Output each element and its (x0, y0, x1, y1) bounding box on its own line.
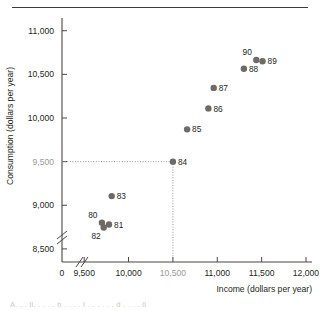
data-point-84: 84 (170, 157, 188, 167)
data-point-marker-87 (211, 85, 217, 91)
x-axis-title: Income (dollars per year) (216, 284, 312, 294)
data-point-label-83: 83 (117, 191, 127, 201)
y-tick-label-8500: 8,500 (32, 244, 54, 254)
x-tick-label-11500: 11,500 (249, 268, 275, 278)
data-point-marker-90 (253, 57, 259, 63)
data-point-group: 8081828384858687888990 (88, 47, 277, 241)
origin-label: 0 (60, 268, 65, 278)
data-point-88: 88 (241, 64, 259, 74)
y-tick-label-10500: 10,500 (28, 69, 55, 79)
data-point-label-88: 88 (249, 64, 259, 74)
data-point-marker-88 (241, 65, 247, 71)
x-tick-label-12000: 12,000 (293, 268, 320, 278)
data-point-90: 90 (243, 47, 260, 63)
data-point-marker-89 (259, 58, 265, 64)
y-axis-title: Consumption (dollars per year) (5, 67, 15, 185)
data-point-label-86: 86 (213, 104, 223, 114)
x-tick-label-10500: 10,500 (160, 268, 187, 278)
x-tick-label-11000: 11,000 (204, 268, 230, 278)
top-horizontal-rule (12, 7, 308, 8)
data-point-label-89: 89 (268, 56, 278, 66)
x-axis-ticks (84, 257, 306, 262)
x-tick-label-9500: 9,500 (73, 268, 95, 278)
guide-lines (62, 162, 173, 262)
data-point-label-84: 84 (178, 157, 188, 167)
data-point-label-81: 81 (114, 220, 124, 230)
data-point-marker-82 (101, 224, 107, 230)
bottom-partial-text: A. . . ll. . . . . h . . . . l . . . . .… (10, 300, 310, 309)
data-point-marker-83 (108, 193, 114, 199)
data-point-82: 82 (91, 224, 106, 240)
data-point-86: 86 (205, 104, 223, 114)
data-point-80: 80 (88, 210, 105, 226)
x-axis-tick-labels: 9,50010,00010,50011,00011,50012,000 (73, 268, 319, 278)
data-point-83: 83 (108, 191, 126, 201)
y-tick-label-9000: 9,000 (32, 200, 54, 210)
y-axis-tick-labels: 8,5009,0009,50010,00010,50011,000 (28, 26, 55, 254)
data-point-81: 81 (106, 220, 124, 230)
data-point-marker-85 (184, 126, 190, 132)
data-point-label-90: 90 (243, 47, 253, 57)
data-point-label-80: 80 (88, 210, 98, 220)
scatter-plot-svg: 8,5009,0009,50010,00010,50011,000 9,5001… (0, 0, 320, 300)
y-tick-label-10000: 10,000 (28, 113, 55, 123)
data-point-marker-84 (170, 158, 176, 164)
y-axis-ticks (62, 31, 67, 249)
x-tick-label-10000: 10,000 (115, 268, 142, 278)
data-point-89: 89 (259, 56, 277, 66)
data-point-label-87: 87 (219, 83, 229, 93)
y-tick-label-9500: 9,500 (32, 157, 54, 167)
data-point-marker-86 (205, 105, 211, 111)
data-point-label-82: 82 (91, 231, 101, 241)
data-point-85: 85 (184, 124, 202, 134)
y-tick-label-11000: 11,000 (28, 26, 54, 36)
scatter-figure: 8,5009,0009,50010,00010,50011,000 9,5001… (0, 0, 320, 311)
data-point-label-85: 85 (192, 124, 202, 134)
data-point-87: 87 (211, 83, 229, 93)
